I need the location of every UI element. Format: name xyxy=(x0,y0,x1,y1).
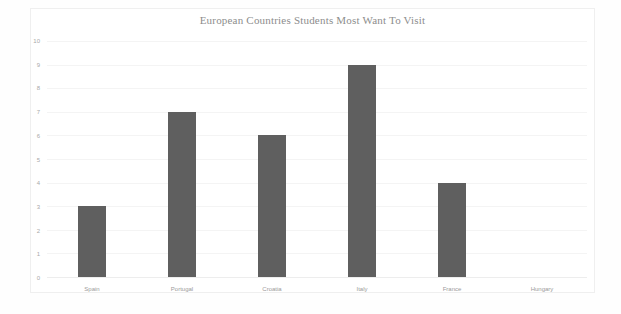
y-axis-tick-label: 6 xyxy=(37,133,40,139)
bar-slot: France xyxy=(407,41,497,277)
bars-container: SpainPortugalCroatiaItalyFranceHungary xyxy=(47,41,587,277)
chart-title: European Countries Students Most Want To… xyxy=(30,14,595,26)
y-axis-tick-label: 7 xyxy=(37,109,40,115)
bar-slot: Hungary xyxy=(497,41,587,277)
y-axis-tick-label: 9 xyxy=(37,62,40,68)
plot-area: 109876543210 SpainPortugalCroatiaItalyFr… xyxy=(47,41,587,277)
bar-chart-figure: European Countries Students Most Want To… xyxy=(0,0,621,314)
bar-slot: Italy xyxy=(317,41,407,277)
bar-slot: Portugal xyxy=(137,41,227,277)
bar xyxy=(348,65,376,277)
x-axis-tick-label: Croatia xyxy=(262,286,281,292)
y-axis-tick-label: 10 xyxy=(33,38,40,44)
gridline: 0 xyxy=(47,277,587,278)
y-axis-tick-label: 4 xyxy=(37,180,40,186)
y-axis-tick-label: 0 xyxy=(37,275,40,281)
bar xyxy=(78,206,106,277)
y-axis-tick-label: 2 xyxy=(37,228,40,234)
y-axis-tick-label: 3 xyxy=(37,204,40,210)
y-axis-tick-label: 8 xyxy=(37,85,40,91)
x-axis-tick-label: Portugal xyxy=(171,286,193,292)
bar-slot: Spain xyxy=(47,41,137,277)
x-axis-tick-label: Spain xyxy=(84,286,99,292)
bar xyxy=(258,135,286,277)
y-axis-tick-label: 1 xyxy=(37,251,40,257)
x-axis-tick-label: Hungary xyxy=(531,286,554,292)
bar xyxy=(168,112,196,277)
x-axis-tick-label: France xyxy=(443,286,462,292)
x-axis-tick-label: Italy xyxy=(356,286,367,292)
y-axis-tick-label: 5 xyxy=(37,157,40,163)
bar-slot: Croatia xyxy=(227,41,317,277)
bar xyxy=(438,183,466,277)
